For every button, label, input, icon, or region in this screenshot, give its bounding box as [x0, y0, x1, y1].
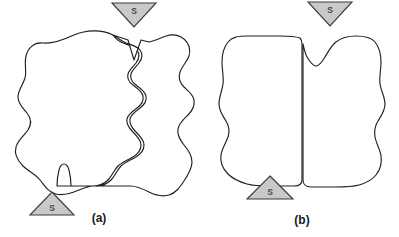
figure-container: S S (a) S S (b)	[0, 0, 399, 237]
marker-a-top-label: S	[131, 6, 137, 16]
panel-a: S S (a)	[15, 3, 194, 225]
diagram-canvas: S S (a) S S (b)	[0, 0, 399, 237]
marker-a-bottom: S	[30, 192, 74, 215]
panel-a-caption: (a)	[92, 211, 107, 225]
panel-b-caption: (b)	[294, 213, 309, 227]
shape-b-left-outline	[219, 36, 302, 186]
marker-b-top: S	[308, 2, 352, 26]
shape-b-right-outline	[303, 36, 385, 187]
marker-a-bottom-label: S	[49, 203, 55, 213]
marker-b-bottom-label: S	[267, 187, 273, 197]
panel-b: S S (b)	[219, 2, 385, 227]
marker-a-top: S	[112, 3, 156, 27]
marker-b-top-label: S	[327, 5, 333, 15]
